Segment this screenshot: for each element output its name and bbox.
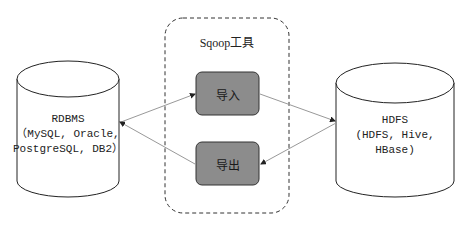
rdbms-line3: PostgreSQL, DB2） [8, 142, 128, 157]
arrow-rdbms-to-import [121, 94, 195, 122]
rdbms-title: RDBMS [8, 112, 128, 127]
sqoop-diagram: Sqoop工具 RDBMS （MySQL, Oracle, PostgreSQL… [0, 0, 456, 227]
hdfs-title: HDFS [336, 113, 454, 128]
arrow-import-to-hdfs [260, 94, 335, 121]
hdfs-label: HDFS (HDFS, Hive, HBase) [336, 113, 454, 158]
rdbms-line2: （MySQL, Oracle, [8, 127, 128, 142]
import-label: 导入 [196, 86, 259, 103]
arrow-hdfs-to-export [261, 123, 336, 164]
export-label: 导出 [196, 156, 259, 173]
arrow-export-to-rdbms [120, 122, 195, 164]
rdbms-label: RDBMS （MySQL, Oracle, PostgreSQL, DB2） [8, 112, 128, 157]
hdfs-line2: (HDFS, Hive, [336, 128, 454, 143]
container-title: Sqoop工具 [165, 33, 289, 51]
hdfs-line3: HBase) [336, 143, 454, 158]
